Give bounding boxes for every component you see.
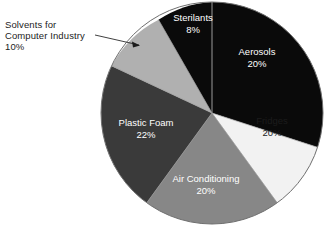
callout-line-1: Solvents for (5, 19, 85, 30)
pie-label-fridges: Fridges (256, 115, 288, 126)
pie-value-aerosols: 20% (247, 58, 267, 69)
callout-line-2: Computer Industry (5, 30, 85, 41)
pie-callout-solvents-for-computer-industry: Solvents for Computer Industry 10% (5, 19, 85, 53)
pie-value-fridges: 20% (262, 127, 282, 138)
pie-label-air-conditioning: Air Conditioning (172, 173, 239, 184)
pie-value-plastic-foam: 22% (136, 129, 156, 140)
pie-label-plastic-foam: Plastic Foam (119, 117, 174, 128)
pie-value-sterilants: 8% (186, 24, 200, 35)
pie-value-air-conditioning: 20% (196, 185, 216, 196)
pie-label-sterilants: Sterilants (173, 12, 213, 23)
pie-chart: Aerosols 20% Fridges 20% Air Conditionin… (0, 0, 329, 229)
callout-line-3: 10% (5, 41, 85, 52)
pie-label-aerosols: Aerosols (239, 46, 276, 57)
